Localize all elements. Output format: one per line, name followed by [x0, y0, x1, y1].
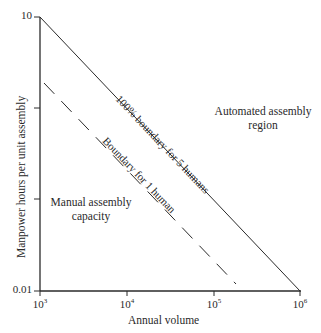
chart-canvas [0, 0, 321, 333]
x-tick-exp: 3 [44, 297, 48, 305]
y-tick-label-10: 10 [2, 9, 32, 21]
x-tick-exp: 4 [131, 297, 135, 305]
x-tick-label-1e4: 104 [112, 297, 142, 310]
x-tick-label-1e3: 103 [25, 297, 55, 310]
automated-region-line2: region [213, 118, 313, 132]
x-tick-label-1e5: 105 [199, 297, 229, 310]
manual-region-line2: capacity [46, 209, 136, 223]
x-tick-base: 10 [207, 298, 218, 310]
x-axis-title: Annual volume [128, 314, 199, 326]
x-tick-base: 10 [33, 298, 44, 310]
x-tick-exp: 6 [304, 297, 308, 305]
y-tick-label-0.01: 0.01 [2, 283, 32, 295]
manual-region-label: Manual assembly capacity [46, 195, 136, 223]
automated-region-label: Automated assembly region [213, 104, 313, 132]
automated-region-line1: Automated assembly [213, 104, 313, 118]
y-axis-title: Manpower hours per unit assembly [15, 96, 27, 258]
x-tick-base: 10 [293, 298, 304, 310]
x-tick-label-1e6: 106 [285, 297, 315, 310]
x-tick-base: 10 [120, 298, 131, 310]
x-tick-exp: 5 [218, 297, 222, 305]
manual-region-line1: Manual assembly [46, 195, 136, 209]
